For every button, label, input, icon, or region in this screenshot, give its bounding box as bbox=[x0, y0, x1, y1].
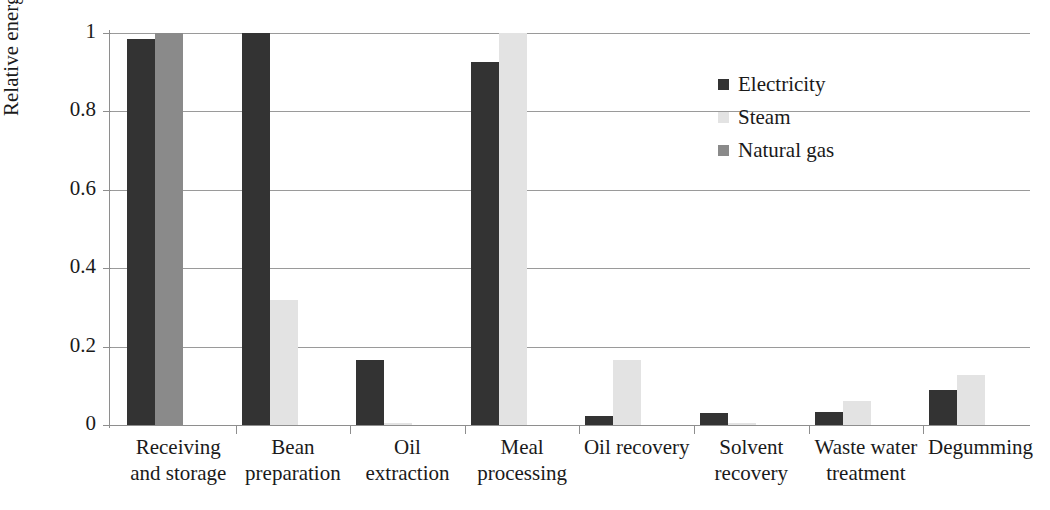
bar-chart: 00.20.40.60.81 Relative energy Receiving… bbox=[0, 0, 1050, 510]
x-axis-tick bbox=[465, 426, 466, 434]
bar-steam bbox=[728, 423, 756, 425]
legend-swatch-steam bbox=[718, 112, 729, 123]
bar-natural-gas bbox=[155, 33, 183, 425]
chart-legend: ElectricitySteamNatural gas bbox=[718, 68, 834, 167]
legend-label-naturalgas: Natural gas bbox=[738, 138, 834, 163]
x-axis-tick bbox=[579, 426, 580, 434]
bar-steam bbox=[270, 300, 298, 425]
y-axis-tick-label: 0 bbox=[0, 411, 96, 436]
legend-label-steam: Steam bbox=[738, 105, 791, 130]
bar-steam bbox=[384, 423, 412, 425]
x-axis-tick bbox=[809, 426, 810, 434]
bar-electricity bbox=[127, 39, 155, 425]
bar-electricity bbox=[471, 62, 499, 425]
y-axis-tick-label: 0.2 bbox=[0, 333, 96, 358]
bar-steam bbox=[843, 401, 871, 425]
bar-electricity bbox=[585, 416, 613, 425]
x-axis-line bbox=[110, 425, 1030, 426]
legend-item-steam: Steam bbox=[718, 101, 834, 134]
x-axis-tick bbox=[694, 426, 695, 434]
y-axis-tick-label: 0.4 bbox=[0, 254, 96, 279]
bar-electricity bbox=[700, 413, 728, 425]
plot-area bbox=[110, 33, 1030, 425]
y-axis-title: Relative energy bbox=[0, 0, 24, 150]
legend-item-electricity: Electricity bbox=[718, 68, 834, 101]
legend-item-naturalgas: Natural gas bbox=[718, 134, 834, 167]
bar-steam bbox=[499, 33, 527, 425]
bar-electricity bbox=[356, 360, 384, 425]
x-axis-tick bbox=[350, 426, 351, 434]
bar-electricity bbox=[242, 33, 270, 425]
x-axis-label-7: Degumming bbox=[906, 434, 1050, 460]
y-axis-tick-label: 0.6 bbox=[0, 176, 96, 201]
legend-swatch-naturalgas bbox=[718, 145, 729, 156]
x-axis-tick bbox=[236, 426, 237, 434]
legend-swatch-electricity bbox=[718, 79, 729, 90]
bar-electricity bbox=[815, 412, 843, 425]
bar-steam bbox=[613, 360, 641, 425]
bar-electricity bbox=[929, 390, 957, 425]
bar-steam bbox=[957, 375, 985, 425]
x-axis-tick bbox=[923, 426, 924, 434]
legend-label-electricity: Electricity bbox=[738, 72, 825, 97]
